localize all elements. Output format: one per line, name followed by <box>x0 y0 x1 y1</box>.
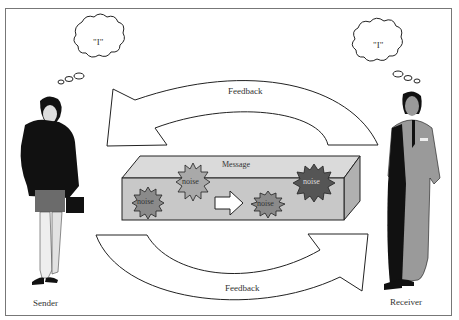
receiver-thought-text: "I" <box>373 40 383 50</box>
message-label: Message <box>222 160 250 169</box>
noise-label-3: noise <box>257 199 274 208</box>
noise-label-1: noise <box>137 197 154 206</box>
sender-label: Sender <box>33 298 58 308</box>
feedback-bottom-label: Feedback <box>225 283 259 293</box>
sender-figure <box>21 96 84 285</box>
receiver-label: Receiver <box>390 297 422 307</box>
sender-thought-bubble <box>58 14 124 84</box>
feedback-top-label: Feedback <box>228 86 262 96</box>
receiver-figure <box>384 91 440 290</box>
noise-label-2: noise <box>182 177 199 186</box>
noise-label-4: noise <box>303 177 320 186</box>
sender-thought-text: "I" <box>93 37 103 47</box>
receiver-thought-bubble <box>352 18 420 83</box>
